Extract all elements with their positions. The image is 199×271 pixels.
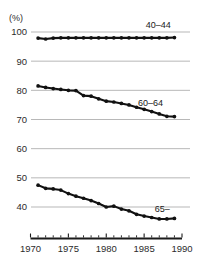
- y-tick-label-40: 40: [16, 201, 27, 212]
- series-markers-group: [36, 36, 176, 221]
- data-point: [89, 199, 93, 203]
- x-axis-group: [31, 234, 183, 239]
- data-point: [74, 89, 78, 93]
- data-point: [120, 36, 124, 40]
- data-point: [104, 36, 108, 40]
- data-point: [173, 217, 177, 221]
- data-point: [97, 36, 101, 40]
- data-point: [51, 87, 55, 91]
- data-point: [74, 194, 78, 198]
- x-tick-label-1970: 1970: [20, 243, 41, 254]
- data-point: [59, 88, 63, 92]
- y-axis-labels-group: 405060708090100: [11, 26, 27, 212]
- data-point: [89, 36, 93, 40]
- chart-container: 405060708090100 19701975198019851990 40–…: [0, 0, 199, 271]
- data-point: [165, 217, 169, 221]
- x-tick-label-1975: 1975: [58, 243, 79, 254]
- data-point: [135, 212, 139, 216]
- data-point: [44, 86, 48, 90]
- y-tick-label-70: 70: [16, 114, 27, 125]
- data-point: [36, 84, 40, 88]
- data-point: [36, 183, 40, 187]
- data-point: [142, 214, 146, 218]
- data-point: [112, 100, 116, 104]
- data-point: [44, 37, 48, 41]
- data-point: [112, 204, 116, 208]
- data-point: [67, 88, 71, 92]
- data-point: [74, 36, 78, 40]
- data-point: [157, 112, 161, 116]
- y-tick-label-60: 60: [16, 143, 27, 154]
- data-point: [157, 36, 161, 40]
- data-point: [59, 36, 63, 40]
- y-tick-label-50: 50: [16, 172, 27, 183]
- data-point: [82, 196, 86, 200]
- line-chart: 405060708090100 19701975198019851990 40–…: [0, 0, 199, 271]
- series-label-60-64: 60–64: [138, 98, 163, 108]
- data-point: [97, 202, 101, 206]
- series-label-65-: 65–: [155, 204, 170, 214]
- data-point: [142, 36, 146, 40]
- x-tick-label-1980: 1980: [96, 243, 117, 254]
- data-point: [157, 217, 161, 221]
- data-point: [127, 103, 131, 107]
- series-line-65-: [38, 185, 174, 219]
- data-point: [51, 36, 55, 40]
- x-axis-labels-group: 19701975198019851990: [20, 243, 193, 254]
- data-point: [120, 102, 124, 106]
- data-point: [120, 207, 124, 211]
- data-point: [112, 36, 116, 40]
- x-tick-label-1990: 1990: [171, 243, 192, 254]
- data-point: [67, 192, 71, 196]
- data-point: [82, 36, 86, 40]
- data-point: [135, 36, 139, 40]
- series-label-40-44: 40–44: [146, 20, 171, 30]
- data-point: [127, 209, 131, 213]
- data-point: [165, 36, 169, 40]
- data-point: [89, 94, 93, 98]
- gridlines-group: [31, 32, 190, 207]
- data-point: [36, 36, 40, 40]
- data-point: [97, 97, 101, 101]
- data-point: [150, 110, 154, 114]
- x-tick-label-1985: 1985: [134, 243, 155, 254]
- data-point: [127, 36, 131, 40]
- data-point: [104, 99, 108, 103]
- data-point: [173, 36, 177, 40]
- data-point: [104, 205, 108, 209]
- data-point: [51, 187, 55, 191]
- data-point: [67, 36, 71, 40]
- data-point: [82, 94, 86, 98]
- data-point: [173, 115, 177, 119]
- y-tick-label-100: 100: [11, 26, 27, 37]
- y-tick-label-90: 90: [16, 56, 27, 67]
- data-point: [150, 216, 154, 220]
- data-point: [59, 188, 63, 192]
- y-axis-unit-label: (%): [9, 13, 23, 23]
- data-point: [165, 114, 169, 118]
- data-point: [150, 36, 154, 40]
- data-point: [44, 186, 48, 190]
- y-tick-label-80: 80: [16, 85, 27, 96]
- series-lines-group: [38, 38, 174, 219]
